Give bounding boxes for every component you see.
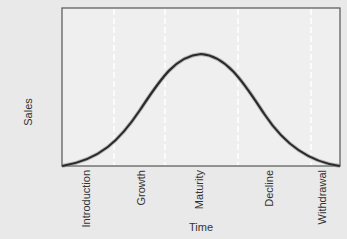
stage-text: Growth: [135, 170, 147, 205]
stage-text: Withdrawal: [316, 170, 328, 224]
stage-text: Maturity: [193, 170, 205, 209]
stage-label-introduction: Introduction: [80, 170, 137, 182]
y-axis-label: Sales: [22, 98, 34, 126]
product-life-cycle-chart: Sales Time Introduction Growth Maturity …: [0, 0, 347, 239]
stage-label-growth: Growth: [135, 170, 170, 182]
chart-canvas: [0, 0, 347, 239]
stage-text: Decline: [263, 170, 275, 207]
plot-area: [62, 8, 340, 166]
stage-label-decline: Decline: [263, 170, 300, 182]
x-axis-label: Time: [189, 221, 213, 233]
stage-text: Introduction: [80, 170, 92, 227]
stage-label-maturity: Maturity: [193, 170, 232, 182]
stage-label-withdrawal: Withdrawal: [316, 170, 347, 182]
